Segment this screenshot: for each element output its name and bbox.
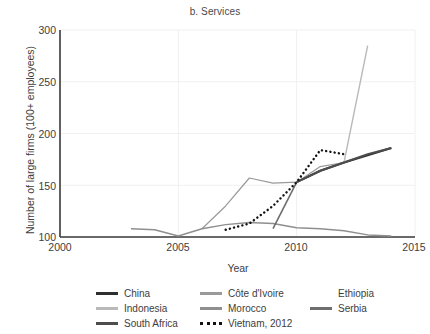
legend-label: South Africa <box>124 318 178 329</box>
legend-item-south-africa[interactable]: South Africa <box>96 316 200 331</box>
legend-item-serbia[interactable]: Serbia <box>310 301 416 316</box>
series-line-morocco <box>131 223 391 236</box>
legend-swatch-icon <box>200 322 222 325</box>
legend-item-china[interactable]: China <box>96 286 200 301</box>
legend-row: South AfricaVietnam, 2012 <box>96 316 426 331</box>
legend-item-morocco[interactable]: Morocco <box>200 301 310 316</box>
series-line-serbia <box>273 182 297 229</box>
legend-row: IndonesiaMoroccoSerbia <box>96 301 426 316</box>
legend-swatch-icon <box>96 292 118 295</box>
plot-area <box>0 0 430 334</box>
legend-item-vietnam-2012[interactable]: Vietnam, 2012 <box>200 316 310 331</box>
legend-row: ChinaCôte d'IvoireEthiopia <box>96 286 426 301</box>
legend-item-ethiopia[interactable]: Ethiopia <box>310 286 416 301</box>
series-line-indonesia <box>344 46 368 163</box>
legend-label: Côte d'Ivoire <box>228 288 284 299</box>
legend-label: Serbia <box>338 303 367 314</box>
chart-legend: ChinaCôte d'IvoireEthiopiaIndonesiaMoroc… <box>96 286 426 332</box>
series-line-china <box>297 148 392 182</box>
legend-label: Indonesia <box>124 303 167 314</box>
legend-swatch-icon <box>96 322 118 325</box>
legend-swatch-icon <box>96 307 118 310</box>
legend-label: China <box>124 288 150 299</box>
legend-item-c-te-d-ivoire[interactable]: Côte d'Ivoire <box>200 286 310 301</box>
legend-swatch-icon <box>200 307 222 310</box>
legend-label: Ethiopia <box>338 288 374 299</box>
series-lines <box>131 46 391 236</box>
legend-label: Vietnam, 2012 <box>228 318 292 329</box>
series-line-c-te-d-ivoire <box>202 162 344 228</box>
legend-item-indonesia[interactable]: Indonesia <box>96 301 200 316</box>
legend-label: Morocco <box>228 303 266 314</box>
gridlines <box>60 30 415 237</box>
legend-swatch-icon <box>310 307 332 310</box>
series-line-vietnam-2012 <box>226 150 344 230</box>
legend-swatch-icon <box>200 292 222 295</box>
chart-figure: b. Services Number of large firms (100+ … <box>0 0 430 334</box>
legend-swatch-icon <box>310 292 332 295</box>
